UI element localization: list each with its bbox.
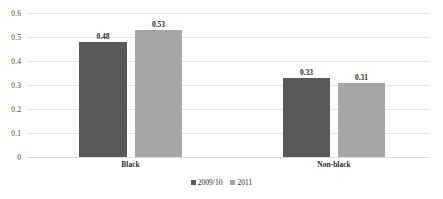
- legend-swatch-icon-2011: [230, 180, 235, 185]
- y-axis-tick-0.3: 0.3: [0, 82, 21, 90]
- data-label-non-black-2009-10: 0.33: [283, 69, 330, 77]
- legend-label-2011: 2011: [237, 179, 252, 187]
- bar-black-2011[interactable]: [135, 30, 182, 157]
- y-axis-tick-0.4: 0.4: [0, 58, 21, 66]
- y-axis-tick-0: 0: [0, 154, 21, 162]
- legend-swatch-icon-2009-10: [191, 180, 196, 185]
- data-label-black-2011: 0.53: [135, 21, 182, 29]
- bar-non-black-2011[interactable]: [338, 83, 385, 157]
- y-axis-tick-0.5: 0.5: [0, 34, 21, 42]
- data-label-non-black-2011: 0.31: [338, 74, 385, 82]
- y-axis-tick-0.6: 0.6: [0, 10, 21, 18]
- bar-non-black-2009-10[interactable]: [283, 78, 330, 157]
- x-axis-line: [27, 157, 430, 158]
- legend-label-2009-10: 2009/10: [198, 179, 223, 187]
- legend-item-2009-10[interactable]: 2009/10: [191, 179, 223, 187]
- category-label-black: Black: [79, 161, 182, 169]
- bar-chart: 0.6 0.5 0.4 0.3 0.2 0.1 0 0.48 0.53 0.33…: [0, 0, 443, 199]
- legend: 2009/10 2011: [0, 179, 443, 187]
- bar-black-2009-10[interactable]: [79, 42, 127, 157]
- legend-item-2011[interactable]: 2011: [230, 179, 252, 187]
- data-label-black-2009-10: 0.48: [79, 33, 127, 41]
- y-axis-tick-0.2: 0.2: [0, 106, 21, 114]
- y-axis-tick-0.1: 0.1: [0, 130, 21, 138]
- category-label-non-black: Non-black: [283, 161, 385, 169]
- gridline-0.6: [27, 13, 430, 14]
